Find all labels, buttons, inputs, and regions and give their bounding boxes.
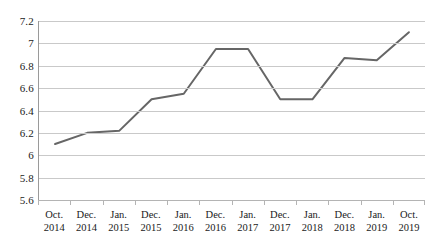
y-tick-label: 5.6 xyxy=(2,195,34,206)
y-tick-label: 6.6 xyxy=(2,83,34,94)
x-tick xyxy=(296,200,297,205)
x-tick xyxy=(167,200,168,205)
x-axis: Oct.2014Dec.2014Jan.2015Dec.2015Jan.2016… xyxy=(38,208,425,248)
y-tick-label: 6.4 xyxy=(2,105,34,116)
y-axis: 7.276.86.66.46.265.85.6 xyxy=(0,0,34,252)
line-chart: 7.276.86.66.46.265.85.6 Oct.2014Dec.2014… xyxy=(0,0,436,252)
x-tick xyxy=(70,200,71,205)
x-tick xyxy=(38,200,39,205)
gridline xyxy=(39,66,425,67)
x-tick xyxy=(103,200,104,205)
x-tick xyxy=(199,200,200,205)
y-tick-label: 7.2 xyxy=(2,16,34,27)
gridline xyxy=(39,133,425,134)
plot-area xyxy=(38,21,425,200)
x-tick xyxy=(361,200,362,205)
y-tick-label: 6.8 xyxy=(2,60,34,71)
gridline xyxy=(39,178,425,179)
gridline xyxy=(39,111,425,112)
x-tick-label-month: Oct. xyxy=(386,208,432,221)
x-tick-label-year: 2019 xyxy=(386,221,432,234)
gridline xyxy=(39,155,425,156)
x-axis-ticks xyxy=(38,200,425,206)
gridline xyxy=(39,21,425,22)
x-tick xyxy=(393,200,394,205)
x-tick xyxy=(135,200,136,205)
x-tick-label: Oct.2019 xyxy=(386,208,432,234)
x-tick xyxy=(232,200,233,205)
gridline xyxy=(39,43,425,44)
y-tick-label: 6.2 xyxy=(2,127,34,138)
y-tick-label: 5.8 xyxy=(2,172,34,183)
x-tick xyxy=(424,200,425,205)
y-tick-label: 7 xyxy=(2,38,34,49)
x-tick xyxy=(328,200,329,205)
y-tick-label: 6 xyxy=(2,150,34,161)
x-tick xyxy=(264,200,265,205)
gridline xyxy=(39,88,425,89)
